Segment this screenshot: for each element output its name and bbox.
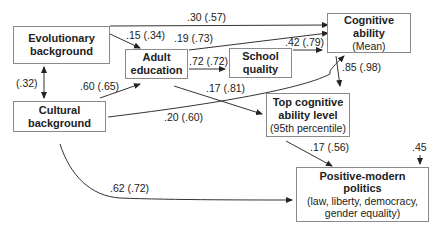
edge-label-cultural-cognitive: .20 (.60): [164, 111, 203, 123]
node-title: Top cognitive: [273, 96, 344, 109]
edge-label-cultural-politics: .62 (.72): [110, 182, 149, 194]
node-evolutionary-background: Evolutionary background: [13, 26, 110, 64]
edge-label-adult-cognitive: .19 (.73): [174, 32, 213, 44]
node-cultural-background: Cultural background: [13, 101, 106, 132]
edge-label-cognitive-top: .85 (.98): [342, 61, 381, 73]
node-subtitle: (Mean): [352, 40, 385, 52]
edge-cultural-politics: [60, 144, 292, 200]
node-title: Evolutionary: [28, 32, 95, 45]
node-title: Cultural: [39, 104, 81, 117]
node-title: ability level: [278, 109, 337, 122]
node-title: education: [131, 64, 183, 77]
edge-label-evolutionary-cultural: (.32): [16, 77, 38, 89]
node-title: background: [30, 45, 93, 58]
edge-label-adult-school: .72 (.72): [189, 55, 228, 67]
node-title: Adult: [142, 51, 170, 64]
node-subtitle: gender equality): [325, 207, 400, 219]
edge-label-evolutionary-cognitive: .30 (.57): [187, 11, 226, 23]
edge-label-adult-top: .17 (.81): [206, 82, 245, 94]
node-positive-modern-politics: Positive-modern politics (law, liberty, …: [296, 167, 429, 222]
node-title: Positive-modern: [319, 170, 405, 183]
node-title: School: [242, 50, 279, 63]
node-title: background: [28, 117, 91, 130]
node-title: quality: [243, 63, 278, 76]
edge-label-cultural-adult: .60 (.65): [80, 80, 119, 92]
node-title: politics: [343, 182, 382, 195]
node-adult-education: Adult education: [125, 49, 188, 79]
edge-label-top-politics: .17 (.56): [310, 141, 349, 153]
node-subtitle: (95th percentile): [270, 122, 346, 134]
node-cognitive-ability: Cognitive ability (Mean): [327, 13, 411, 53]
node-title: ability: [353, 27, 385, 40]
edge-label-evolutionary-adult: .15 (.34): [126, 29, 165, 41]
node-school-quality: School quality: [229, 48, 292, 78]
node-title: Cognitive: [344, 14, 394, 27]
node-top-cognitive-ability: Top cognitive ability level (95th percen…: [266, 93, 350, 137]
edge-evolutionary-cognitive: [110, 25, 328, 26]
node-subtitle: (law, liberty, democracy,: [307, 195, 418, 207]
residual-label-politics: .45: [412, 141, 427, 153]
edge-label-school-cognitive: .42 (.79): [285, 36, 324, 48]
